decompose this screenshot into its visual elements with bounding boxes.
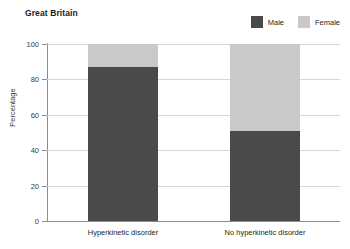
x-axis-line (47, 221, 340, 222)
y-tick-label: 40 (31, 146, 39, 155)
bar-segment-male[interactable] (230, 131, 300, 221)
plot-area (47, 44, 340, 221)
legend-swatch-female (298, 16, 310, 28)
legend-swatch-male (251, 16, 263, 28)
x-tick-label: No hyperkinetic disorder (225, 228, 306, 237)
legend-label-male: Male (268, 18, 284, 27)
chart-title: Great Britain (25, 8, 78, 18)
bar-segment-female[interactable] (88, 44, 158, 67)
legend-item-male: Male (251, 16, 284, 28)
bar-segment-female[interactable] (230, 44, 300, 131)
y-axis-title: Percentage (8, 73, 17, 143)
chart-legend: Male Female (251, 16, 340, 28)
y-tick-mark (42, 221, 47, 222)
y-tick-label: 20 (31, 181, 39, 190)
legend-item-female: Female (298, 16, 340, 28)
y-tick-label: 0 (35, 217, 39, 226)
y-tick-label: 80 (31, 75, 39, 84)
y-tick-label: 100 (26, 40, 39, 49)
bar-group[interactable] (88, 44, 158, 221)
legend-label-female: Female (315, 18, 340, 27)
y-tick-label: 60 (31, 110, 39, 119)
x-tick-label: Hyperkinetic disorder (88, 228, 158, 237)
bar-segment-male[interactable] (88, 67, 158, 221)
bar-group[interactable] (230, 44, 300, 221)
